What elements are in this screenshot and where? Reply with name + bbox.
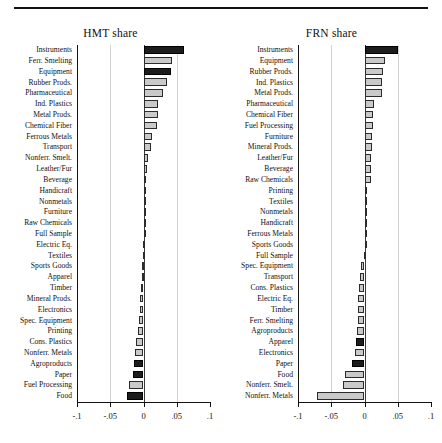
bar-mineral-prods xyxy=(140,295,143,303)
bar-row xyxy=(298,132,431,143)
bar-chemical-fiber xyxy=(144,122,158,130)
category-label: Cons. Plastics xyxy=(250,284,293,292)
bar-row xyxy=(77,315,210,326)
bar-leather-fur xyxy=(144,165,147,173)
bar-row xyxy=(298,175,431,186)
hmt-axis-tick-label: -.05 xyxy=(104,411,117,421)
category-label: Furniture xyxy=(44,208,72,216)
bar-row xyxy=(77,272,210,283)
bar-row xyxy=(77,261,210,272)
category-label: Leather/Fur xyxy=(257,154,293,162)
bar-row xyxy=(77,56,210,67)
bar-nonferr-metals xyxy=(317,392,365,400)
bar-nonferr-smelt xyxy=(144,154,148,162)
category-label: Chemical Fiber xyxy=(246,111,293,119)
bar-ferrous-metals xyxy=(144,133,153,141)
category-label: Printing xyxy=(48,327,72,335)
bar-cons-plastics xyxy=(136,338,144,346)
bar-equipment xyxy=(365,57,386,65)
bar-row xyxy=(298,196,431,207)
category-label: Electric Eq. xyxy=(36,241,72,249)
bar-row xyxy=(77,110,210,121)
category-label: Paper xyxy=(276,360,293,368)
bar-agroproducts xyxy=(134,360,144,368)
bar-food xyxy=(127,392,144,400)
category-label: Leather/Fur xyxy=(36,165,72,173)
category-label: Transport xyxy=(43,143,72,151)
bar-fuel-processing xyxy=(129,381,143,389)
hmt-axis-tick-label: .1 xyxy=(207,411,213,421)
category-label: Textiles xyxy=(48,252,72,260)
bar-row xyxy=(298,110,431,121)
panel-title-frn: FRN share xyxy=(221,26,442,40)
category-label: Equipment xyxy=(39,68,72,76)
bar-row xyxy=(298,121,431,132)
category-label: Textiles xyxy=(269,198,293,206)
category-label: Metal Prods. xyxy=(254,89,293,97)
bar-row xyxy=(298,337,431,348)
bar-row xyxy=(298,67,431,78)
bar-rubber-prods xyxy=(365,68,383,76)
bar-row xyxy=(77,175,210,186)
category-label: Fuel Processing xyxy=(24,381,72,389)
bar-electronics xyxy=(140,306,143,314)
category-label: Ind. Plastics xyxy=(256,79,293,87)
bar-full-sample xyxy=(364,252,366,260)
bar-row xyxy=(77,142,210,153)
bar-row xyxy=(298,45,431,56)
bar-row xyxy=(298,99,431,110)
bar-row xyxy=(298,56,431,67)
bar-mineral-prods xyxy=(365,143,373,151)
category-label: Rubber Prods. xyxy=(29,79,72,87)
category-label: Ind. Plastics xyxy=(35,100,72,108)
category-label: Nonferr. Smelt. xyxy=(246,381,293,389)
bar-handicraft xyxy=(365,219,367,227)
bar-equipment xyxy=(144,68,172,76)
category-label: Furniture xyxy=(265,133,293,141)
bar-paper xyxy=(133,371,143,379)
top-rule-divider xyxy=(14,7,428,9)
bar-ferr-smelting xyxy=(358,316,365,324)
category-label: Timber xyxy=(271,306,293,314)
bar-electric-eq xyxy=(143,241,145,249)
bar-furniture xyxy=(144,208,146,216)
bar-row xyxy=(77,283,210,294)
bar-row xyxy=(298,380,431,391)
bar-timber xyxy=(141,284,144,292)
bar-textiles xyxy=(365,197,367,205)
category-label: Beverage xyxy=(264,165,293,173)
category-label: Instruments xyxy=(36,46,72,54)
bar-row xyxy=(298,305,431,316)
bar-paper xyxy=(352,360,365,368)
panel-frn-share: FRN share InstrumentsEquipmentRubber Pro… xyxy=(221,26,442,436)
plot-area-hmt: -.1-.050.05.1 xyxy=(77,45,210,402)
bar-row xyxy=(77,348,210,359)
hmt-axis-tick xyxy=(210,402,211,407)
bar-row xyxy=(298,294,431,305)
category-label: Mineral Prods. xyxy=(27,295,72,303)
bar-row xyxy=(298,186,431,197)
bar-metal-prods xyxy=(365,89,382,97)
frn-axis-tick xyxy=(365,402,366,407)
bar-row xyxy=(77,380,210,391)
category-label: Fuel Processing xyxy=(245,122,293,130)
category-label: Handicraft xyxy=(261,219,293,227)
category-label: Agroproducts xyxy=(251,327,293,335)
bar-row xyxy=(77,164,210,175)
bar-rubber-prods xyxy=(144,78,168,86)
bar-row xyxy=(298,229,431,240)
bar-row xyxy=(298,326,431,337)
bar-fuel-processing xyxy=(365,122,373,130)
bar-nonferr-metals xyxy=(135,349,143,357)
bars-hmt xyxy=(77,45,210,402)
bar-ferrous-metals xyxy=(365,230,367,238)
category-label: Ferr. Smelting xyxy=(250,317,293,325)
bar-row xyxy=(298,315,431,326)
bar-printing xyxy=(138,327,143,335)
bar-spec-equipment xyxy=(361,262,365,270)
category-label: Sports Goods xyxy=(31,262,72,270)
category-label: Printing xyxy=(269,187,293,195)
panel-title-hmt: HMT share xyxy=(0,26,221,40)
category-label: Agroproducts xyxy=(30,360,72,368)
bar-row xyxy=(298,261,431,272)
